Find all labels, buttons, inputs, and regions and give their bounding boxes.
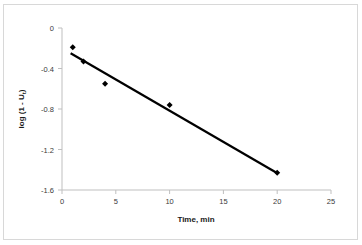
x-tick-label-4: 20 xyxy=(273,197,281,206)
x-tick-label-3: 15 xyxy=(219,197,227,206)
y-axis-title-main: log (1 - U xyxy=(17,94,26,128)
x-tick-label-5: 25 xyxy=(327,197,335,206)
x-tick-label-1: 5 xyxy=(114,197,118,206)
y-tick-label-4: -1.6 xyxy=(41,186,54,195)
y-axis-tick-labels: 0 -0.4 -0.8 -1.2 -1.6 xyxy=(41,24,54,195)
y-axis-ticks xyxy=(58,28,62,190)
x-axis-tick-labels: 0 5 10 15 20 25 xyxy=(60,197,335,206)
trend-line xyxy=(71,53,279,173)
data-point xyxy=(167,102,173,108)
y-tick-label-0: 0 xyxy=(50,24,54,33)
chart-plot-svg: 0 -0.4 -0.8 -1.2 -1.6 0 5 10 15 20 25 Ti… xyxy=(0,0,362,245)
data-point xyxy=(102,81,108,87)
x-tick-label-0: 0 xyxy=(60,197,64,206)
x-axis-ticks xyxy=(62,190,331,194)
y-tick-label-1: -0.4 xyxy=(41,65,54,74)
chart-container: 0 -0.4 -0.8 -1.2 -1.6 0 5 10 15 20 25 Ti… xyxy=(0,0,362,245)
data-point xyxy=(70,44,76,50)
y-axis-title-close: ) xyxy=(17,89,26,92)
x-tick-label-2: 10 xyxy=(165,197,173,206)
y-axis-title: log (1 - Ut) xyxy=(17,89,27,128)
x-axis-title: Time, min xyxy=(177,215,214,224)
y-tick-label-2: -0.8 xyxy=(41,105,54,114)
y-tick-label-3: -1.2 xyxy=(41,146,54,155)
